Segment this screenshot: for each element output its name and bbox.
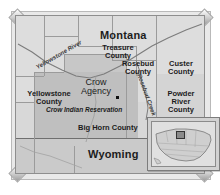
county-label-custer-line2: County: [162, 68, 200, 76]
county-label-big-horn: Big Horn County: [78, 124, 138, 132]
locator-inset-map: [147, 117, 220, 171]
state-label-montana: Montana: [100, 30, 147, 41]
usa-outline-icon: [152, 122, 215, 166]
tributary-line: [20, 146, 82, 168]
locator-inset-frame: [151, 121, 216, 167]
locator-highlight-montana: [176, 131, 185, 139]
reference-map-figure: Montana Wyoming Treasure County Rosebud …: [0, 0, 220, 195]
city-dot-crow-agency-icon: [116, 96, 119, 99]
state-label-wyoming: Wyoming: [88, 149, 139, 160]
county-label-yellowstone-line2: County: [26, 98, 72, 106]
area-label-crow-indian-reservation: Crow Indian Reservation: [46, 107, 122, 114]
county-label-powder-river-line3: County: [162, 106, 200, 114]
place-label-crow-agency-line2: Agency: [74, 87, 118, 96]
